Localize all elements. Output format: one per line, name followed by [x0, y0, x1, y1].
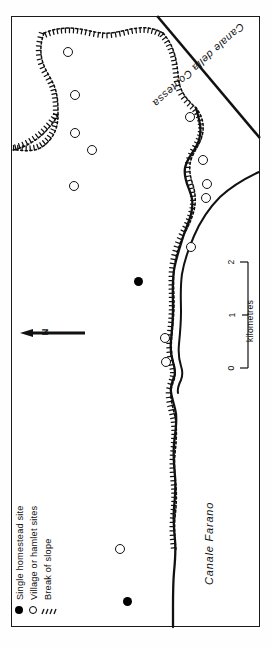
map-figure: Canale della Contessa Canale Farano N 2 … — [0, 0, 272, 649]
legend-symbol-break-of-slope — [40, 600, 56, 620]
north-arrow-label: N — [40, 329, 50, 336]
site-marker-village-hamlet — [201, 193, 211, 203]
site-marker-single-homestead — [134, 277, 143, 286]
site-marker-village-hamlet — [185, 112, 195, 122]
site-marker-village-hamlet — [63, 47, 73, 57]
scale-bar-label-2: 2 — [226, 260, 236, 265]
scale-bar-label-0: 0 — [226, 366, 236, 371]
site-marker-village-hamlet — [115, 544, 125, 554]
site-marker-village-hamlet — [69, 181, 79, 191]
scale-bar-unit-label: kilometres — [245, 300, 255, 342]
site-marker-village-hamlet — [202, 179, 212, 189]
site-marker-village-hamlet — [160, 333, 170, 343]
site-marker-village-hamlet — [87, 145, 97, 155]
site-marker-village-hamlet — [161, 357, 171, 367]
site-marker-village-hamlet — [198, 155, 208, 165]
legend: Single homestead site Village or hamlet … — [12, 470, 72, 620]
scale-bar-label-1: 1 — [227, 313, 237, 318]
canale-farano-label: Canale Farano — [203, 502, 215, 585]
legend-symbol-village-hamlet — [29, 606, 37, 614]
site-marker-single-homestead — [123, 597, 132, 606]
site-marker-village-hamlet — [70, 90, 80, 100]
legend-symbol-single-homestead — [15, 606, 23, 614]
site-marker-village-hamlet — [186, 242, 196, 252]
legend-label-village-hamlet: Village or hamlet sites — [29, 506, 39, 600]
site-marker-village-hamlet — [70, 128, 80, 138]
legend-label-break-of-slope: Break of slope — [43, 538, 53, 600]
legend-label-single-homestead: Single homestead site — [15, 505, 25, 600]
